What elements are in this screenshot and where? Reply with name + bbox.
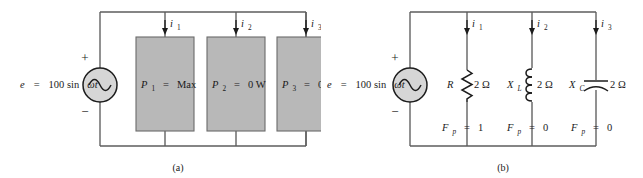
current-label-1: i 1	[472, 13, 483, 32]
source-plus-sign: +	[391, 50, 398, 65]
source-label-symbol: e	[20, 79, 25, 90]
current-label-1: i 1	[170, 13, 181, 32]
source-label-omega-t: ωt	[394, 79, 405, 90]
panel-a: + − e = 100 sin ωt P 1 = Max i	[0, 0, 321, 178]
capacitor-symbol-sub: C	[579, 84, 584, 93]
power-factor-1-value: 1	[478, 122, 483, 133]
power-factor-2-value: 0	[543, 122, 548, 133]
source-label-symbol: e	[327, 79, 332, 90]
resistor-symbol-base: R	[446, 79, 454, 90]
power-factor-1-equals: =	[464, 122, 470, 133]
source-label-equals: =	[34, 79, 40, 90]
inductor-coil-icon	[526, 69, 532, 101]
power-factor-1-base: F	[441, 122, 449, 133]
power-factor-2-base: F	[506, 122, 514, 133]
current-label-3: i 3	[311, 13, 321, 32]
panel-b-diagram: + − e = 100 sin ωt R 2 Ω i 1	[321, 0, 643, 178]
power-block-2-value: 0 W	[248, 79, 266, 90]
power-block-1-value: Max	[177, 79, 197, 90]
inductor-symbol-base: X	[506, 79, 514, 90]
capacitor-symbol: X C	[568, 74, 584, 93]
panel-b-caption: (b)	[497, 162, 509, 174]
power-block-2-equals: =	[234, 79, 240, 90]
current-label-2-base: i	[241, 18, 244, 29]
current-label-3-base: i	[601, 18, 604, 29]
source-plus-sign: +	[81, 50, 88, 65]
current-label-1-sub: 1	[177, 23, 181, 32]
current-label-1-sub: 1	[479, 23, 483, 32]
source-label-omega-t: ωt	[87, 79, 98, 90]
panel-b: + − e = 100 sin ωt R 2 Ω i 1	[321, 0, 643, 178]
current-label-1-base: i	[170, 18, 173, 29]
resistor-icon	[462, 70, 472, 102]
panel-a-diagram: + − e = 100 sin ωt P 1 = Max i	[0, 0, 321, 178]
power-factor-3-value: 0	[607, 122, 612, 133]
current-label-3-base: i	[311, 18, 314, 29]
inductor-symbol: X L	[506, 74, 521, 93]
current-label-2-sub: 2	[544, 23, 548, 32]
power-factor-2-equals: =	[529, 122, 535, 133]
power-factor-3-equals: =	[593, 122, 599, 133]
down-arrow-icon-1	[464, 28, 470, 35]
current-label-1-base: i	[472, 18, 475, 29]
current-label-2-sub: 2	[248, 23, 252, 32]
down-arrow-icon-2	[233, 28, 239, 35]
capacitor-value: 2 Ω	[610, 79, 626, 90]
power-block-2-symbol: P	[211, 79, 219, 90]
circuit-figure: + − e = 100 sin ωt P 1 = Max i	[0, 0, 643, 178]
capacitor-symbol-base: X	[568, 79, 576, 90]
resistor-symbol: R	[446, 79, 454, 90]
inductor-symbol-sub: L	[516, 84, 521, 93]
power-factor-2-sub: p	[516, 127, 521, 136]
source-minus-sign: −	[391, 104, 398, 119]
power-factor-2: F p = 0	[506, 117, 548, 137]
power-factor-1: F p = 1	[441, 117, 483, 137]
current-label-2-base: i	[537, 18, 540, 29]
power-block-1-subscript: 1	[151, 84, 155, 93]
power-block-3-symbol: P	[281, 79, 289, 90]
current-label-3: i 3	[601, 13, 612, 32]
source-label-value: 100 sin	[356, 79, 387, 90]
down-arrow-icon-3	[303, 28, 309, 35]
source-label-equals: =	[341, 79, 347, 90]
resistor-value: 2 Ω	[474, 79, 490, 90]
source-label-value: 100 sin	[49, 79, 80, 90]
panel-a-caption: (a)	[172, 162, 183, 174]
current-label-2: i 2	[241, 13, 252, 32]
source-minus-sign: −	[81, 104, 88, 119]
current-label-2: i 2	[537, 13, 548, 32]
power-block-1-symbol: P	[140, 79, 148, 90]
source-label: e = 100 sin ωt	[327, 74, 406, 91]
power-block-3-equals: =	[304, 79, 310, 90]
power-factor-1-sub: p	[451, 127, 456, 136]
inductor-value: 2 Ω	[537, 79, 553, 90]
down-arrow-icon-1	[162, 28, 168, 35]
power-factor-3-base: F	[570, 122, 578, 133]
power-block-2-subscript: 2	[222, 84, 226, 93]
down-arrow-icon-2	[529, 28, 535, 35]
power-factor-3: F p = 0	[570, 117, 612, 137]
power-block-1-equals: =	[163, 79, 169, 90]
power-block-3-subscript: 3	[292, 84, 296, 93]
down-arrow-icon-3	[593, 28, 599, 35]
current-label-3-sub: 3	[608, 23, 612, 32]
power-factor-3-sub: p	[580, 127, 585, 136]
capacitor-curved-icon	[584, 81, 608, 91]
